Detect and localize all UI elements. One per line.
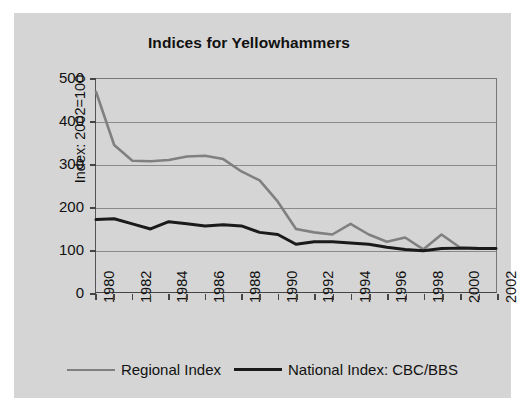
x-tick-mark: [132, 294, 134, 300]
series-lines: [96, 79, 496, 292]
legend-entry: Regional Index: [67, 361, 221, 378]
legend-line-swatch: [67, 369, 115, 371]
x-tick-mark: [296, 294, 298, 300]
x-tick-mark: [113, 294, 115, 300]
y-tick-mark: [90, 164, 96, 166]
y-tick-label: 100: [40, 242, 84, 257]
y-tick-label: 300: [40, 156, 84, 171]
x-tick-mark: [497, 294, 499, 300]
series-line: [96, 219, 496, 251]
legend-entry: National Index: CBC/BBS: [234, 361, 458, 378]
x-tick-mark: [314, 294, 316, 300]
x-tick-mark: [186, 294, 188, 300]
legend-label: National Index: CBC/BBS: [288, 361, 458, 378]
x-tick-mark: [406, 294, 408, 300]
x-tick-mark: [333, 294, 335, 300]
x-tick-mark: [442, 294, 444, 300]
x-tick-mark: [369, 294, 371, 300]
x-tick-mark: [223, 294, 225, 300]
y-tick-label: 400: [40, 113, 84, 128]
x-tick-mark: [205, 294, 207, 300]
x-tick-mark: [424, 294, 426, 300]
y-tick-mark: [90, 121, 96, 123]
x-tick-mark: [150, 294, 152, 300]
y-tick-mark: [90, 207, 96, 209]
chart-title: Indices for Yellowhammers: [14, 34, 484, 52]
x-tick-mark: [460, 294, 462, 300]
x-tick-mark: [95, 294, 97, 300]
legend-label: Regional Index: [121, 361, 221, 378]
plot-area: [95, 78, 497, 293]
x-tick-mark: [259, 294, 261, 300]
chart-figure: Indices for Yellowhammers Index: 2002=10…: [14, 13, 511, 398]
x-tick-mark: [479, 294, 481, 300]
x-tick-mark: [351, 294, 353, 300]
y-tick-label: 0: [40, 285, 84, 300]
x-tick-label: 2002: [503, 271, 517, 303]
chart-legend: Regional IndexNational Index: CBC/BBS: [14, 361, 511, 378]
x-tick-mark: [168, 294, 170, 300]
x-tick-mark: [387, 294, 389, 300]
x-tick-mark: [241, 294, 243, 300]
x-tick-mark: [278, 294, 280, 300]
y-tick-mark: [90, 250, 96, 252]
y-tick-label: 200: [40, 199, 84, 214]
legend-line-swatch: [234, 368, 282, 371]
y-tick-label: 500: [40, 70, 84, 85]
y-tick-mark: [90, 78, 96, 80]
